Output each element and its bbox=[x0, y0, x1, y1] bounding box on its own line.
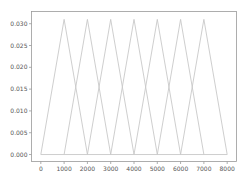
y-tick-label: 0.030 bbox=[10, 20, 27, 27]
axes-frame bbox=[32, 12, 237, 162]
y-tick-label: 0.005 bbox=[10, 129, 27, 136]
x-tick-label: 5000 bbox=[150, 165, 165, 172]
triangle-2-line bbox=[64, 19, 111, 154]
x-tick-label: 7000 bbox=[196, 165, 211, 172]
triangle-5-line bbox=[134, 19, 181, 154]
y-tick-label: 0.010 bbox=[10, 107, 27, 114]
triangle-filterbank-chart: 010002000300040005000600070008000 0.0000… bbox=[0, 0, 247, 178]
triangle-3-line bbox=[87, 19, 134, 154]
plot-lines bbox=[41, 19, 227, 154]
x-tick-label: 8000 bbox=[220, 165, 235, 172]
y-axis: 0.0000.0050.0100.0150.0200.0250.030 bbox=[10, 20, 31, 158]
y-tick-label: 0.015 bbox=[10, 85, 27, 92]
y-tick-label: 0.000 bbox=[10, 151, 27, 158]
y-tick-label: 0.020 bbox=[10, 63, 27, 70]
x-tick-label: 4000 bbox=[126, 165, 141, 172]
triangle-4-line bbox=[111, 19, 158, 154]
x-tick-label: 3000 bbox=[103, 165, 118, 172]
triangle-6-line bbox=[157, 19, 204, 154]
x-tick-label: 6000 bbox=[173, 165, 188, 172]
triangle-1-line bbox=[41, 19, 88, 154]
x-tick-label: 0 bbox=[39, 165, 43, 172]
y-tick-label: 0.025 bbox=[10, 42, 27, 49]
x-tick-label: 1000 bbox=[56, 165, 71, 172]
x-axis: 010002000300040005000600070008000 bbox=[39, 162, 235, 173]
x-tick-label: 2000 bbox=[80, 165, 95, 172]
triangle-7-line bbox=[181, 19, 228, 154]
